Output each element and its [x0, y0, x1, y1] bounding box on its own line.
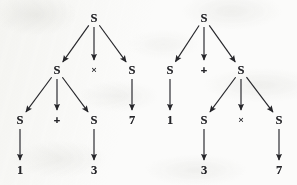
tree-node-nonterminal-r-l1-b: S	[238, 64, 245, 77]
tree-node-operator-l-l1-op: ×	[91, 65, 97, 75]
tree-edge-arrow	[209, 25, 235, 62]
tree-edge-arrow	[63, 25, 89, 62]
tree-node-number-l-num-1: 1	[17, 164, 23, 177]
tree-edges-canvas	[0, 0, 297, 185]
tree-edge-arrow	[246, 77, 273, 112]
tree-node-number-l-num-7: 7	[129, 114, 135, 127]
tree-node-number-r-num-7: 7	[276, 164, 282, 177]
tree-node-number-l-num-3: 3	[91, 164, 97, 177]
tree-node-number-r-num-3: 3	[201, 164, 207, 177]
edges-group	[20, 25, 279, 160]
tree-node-number-r-num-1: 1	[167, 114, 173, 127]
tree-edge-arrow	[26, 77, 52, 112]
tree-node-nonterminal-r-l2-a: S	[201, 114, 208, 127]
tree-node-nonterminal-l-l2-b: S	[91, 114, 98, 127]
tree-node-nonterminal-l-root: S	[91, 12, 98, 25]
tree-node-nonterminal-r-l1-a: S	[167, 64, 174, 77]
tree-node-nonterminal-r-l2-b: S	[276, 114, 283, 127]
tree-node-nonterminal-l-l1-b: S	[129, 64, 136, 77]
tree-edge-arrow	[99, 25, 126, 62]
tree-edge-arrow	[175, 26, 199, 62]
tree-node-operator-l-l2-op: +	[54, 115, 60, 126]
tree-node-operator-r-l2-op: ×	[238, 115, 244, 125]
tree-edge-arrow	[62, 77, 88, 112]
tree-node-nonterminal-l-l2-a: S	[17, 114, 24, 127]
parse-tree-figure: SS×SS+S713SS+S1S×S37	[0, 0, 297, 185]
tree-node-operator-r-l1-op: +	[201, 65, 207, 76]
tree-node-nonterminal-l-l1-a: S	[54, 64, 61, 77]
tree-node-nonterminal-r-root: S	[201, 12, 208, 25]
tree-edge-arrow	[210, 77, 236, 112]
